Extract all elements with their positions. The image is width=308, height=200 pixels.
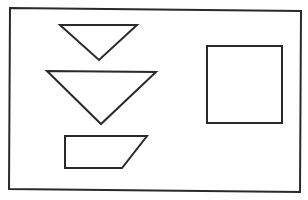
diagram-canvas [0,0,308,200]
small-inverted-triangle [60,25,137,60]
trapezoid [65,136,147,168]
large-inverted-triangle [47,71,156,124]
square [207,46,282,123]
outer-frame [9,8,301,192]
shapes-diagram [0,0,308,200]
